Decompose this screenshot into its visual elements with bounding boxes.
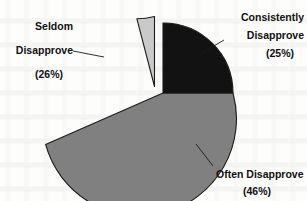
pie-chart-figure: Seldom Disapprove (26%) Consistently Dis… xyxy=(0,0,307,201)
pie-label-seldom-disapprove: Seldom Disapprove (26%) xyxy=(16,20,73,80)
pie-slice-seldom-disapprove[interactable] xyxy=(137,17,155,87)
pie-label-seldom-line1: Seldom xyxy=(35,20,73,32)
pie-label-consistently-disapprove: Consistently Disapprove (25%) xyxy=(241,11,304,59)
pie-label-seldom-line2: Disapprove xyxy=(16,44,73,56)
pie-slice-consistently-disapprove[interactable] xyxy=(163,23,233,93)
pie-label-often-value: (46%) xyxy=(243,185,271,197)
pie-slice-often-disapprove[interactable] xyxy=(46,93,237,201)
leader-line-seldom xyxy=(73,51,104,57)
pie-label-consistently-value: (25%) xyxy=(266,47,294,59)
pie-label-consistently-line1: Consistently xyxy=(241,11,304,23)
pie-label-often-line1: Often Disapprove xyxy=(216,168,304,180)
pie-label-often-disapprove: Often Disapprove (46%) xyxy=(216,168,304,197)
pie-chart-svg: Seldom Disapprove (26%) Consistently Dis… xyxy=(0,0,307,201)
pie-slice-seldom-group xyxy=(137,17,155,87)
pie-label-seldom-value: (26%) xyxy=(35,68,63,80)
pie-label-consistently-line2: Disapprove xyxy=(247,29,304,41)
